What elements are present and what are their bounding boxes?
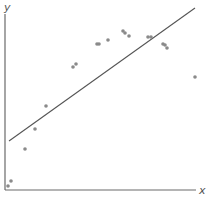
data-points [6,29,197,188]
data-point [163,43,167,47]
data-point [74,62,78,66]
data-point [33,127,37,131]
data-point [6,184,10,188]
data-point [44,104,48,108]
scatter-chart: y x [0,0,218,203]
x-axis-label: x [198,184,206,197]
data-point [193,75,197,79]
data-point [149,35,153,39]
regression-line [9,8,195,141]
data-point [23,147,27,151]
data-point [9,179,13,183]
data-point [127,34,131,38]
data-point [123,31,127,35]
data-point [165,46,169,50]
data-point [71,65,75,69]
y-axis-label: y [3,1,11,14]
data-point [97,42,101,46]
data-point [106,38,110,42]
